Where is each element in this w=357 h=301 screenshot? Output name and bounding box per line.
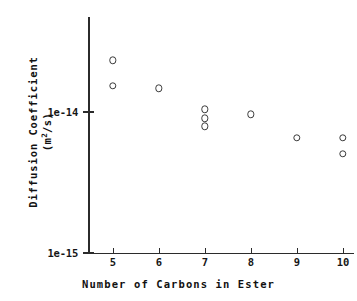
data-point [201,115,208,122]
data-point [109,57,116,64]
data-point [201,106,208,113]
data-point [201,123,208,130]
scatter-chart-figure: 1e-14 1e-15 5 6 7 8 9 10 Number of Carbo… [0,0,357,301]
data-point [155,85,162,92]
data-point [293,134,300,141]
data-point [339,150,346,157]
data-point [247,111,254,118]
plot-area [0,0,357,301]
data-point [339,134,346,141]
data-point [109,82,116,89]
